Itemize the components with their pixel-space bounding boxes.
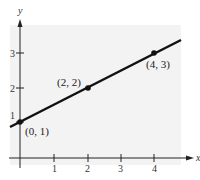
y-tick-label: 3 bbox=[10, 48, 15, 59]
x-axis-arrow-icon bbox=[186, 156, 194, 161]
x-tick-label: 3 bbox=[118, 163, 123, 174]
y-tick-label: 1 bbox=[10, 110, 15, 121]
y-tick-label: 2 bbox=[10, 83, 15, 94]
data-point bbox=[17, 119, 23, 125]
x-tick-label: 4 bbox=[152, 163, 157, 174]
x-axis-label: x bbox=[195, 152, 200, 163]
chart: x y 1 2 3 4 1 2 3 (0, 1) (2, 2) (4, 3) bbox=[0, 0, 200, 180]
data-point bbox=[151, 50, 157, 56]
x-tick-label: 1 bbox=[52, 163, 57, 174]
y-axis-arrow-icon bbox=[18, 19, 23, 27]
point-label: (0, 1) bbox=[25, 125, 49, 138]
data-point bbox=[85, 85, 91, 91]
y-axis-label: y bbox=[17, 5, 23, 16]
point-label: (4, 3) bbox=[146, 58, 170, 71]
x-tick-label: 2 bbox=[85, 163, 90, 174]
point-label: (2, 2) bbox=[57, 76, 81, 89]
plot-background bbox=[10, 25, 181, 165]
